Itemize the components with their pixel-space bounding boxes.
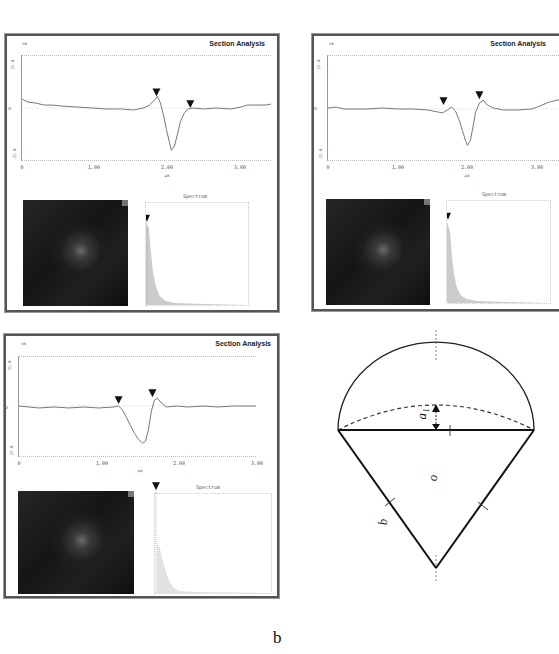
marker-right-icon [186,100,194,108]
section-profile-plot: 25.0 0 -25.0 0 1.00 2.00 3.00 μm [18,356,256,457]
y-unit-label: nm [329,41,334,46]
y-tick-top: 25.0 [316,60,321,70]
section-analysis-panel-3: Section Analysis nm 25.0 0 -25.0 0 1.00 … [4,334,279,598]
marker-left-icon [440,97,448,105]
profile-line [19,357,256,456]
panel-title: Section Analysis [215,340,271,347]
y-tick-top: 25.0 [7,361,12,371]
y-tick-bottom: -25.0 [9,445,14,457]
figure-caption: b [273,628,282,648]
profile-line [328,56,559,160]
x-tick-2: 2.00 [173,460,185,466]
spectrum-title: Spectrum [482,191,506,197]
section-profile-plot: 25.0 0 -25.0 0 1.00 2.00 3.00 μm [327,55,559,161]
spectrum-marker-icon [152,482,160,490]
spectrum-title: Spectrum [196,484,220,490]
afm-height-image [326,199,430,305]
x-tick-3: 3.00 [251,460,263,466]
x-tick-1: 1.00 [392,164,404,170]
marker-left-icon [152,88,160,96]
afm-height-image [23,200,128,306]
marker-right-icon [148,389,156,397]
y-tick-zero: 0 [7,107,12,109]
spectrum-plot [154,493,272,594]
label-b: b [375,519,391,526]
spectrum-marker-icon [447,213,451,220]
x-unit-label: μm [465,173,470,178]
y-tick-zero: 0 [313,107,318,109]
label-o: o [425,475,441,482]
x-tick-2: 2.00 [461,164,473,170]
x-tick-1: 1.00 [96,460,108,466]
x-tick-0: 0 [17,460,20,466]
label-a1: a₁ [414,408,430,419]
section-analysis-panel-1: Section Analysis nm 25.0 0 -25.0 0 1.00 … [5,34,279,312]
marker-right-icon [475,91,483,99]
cone-left-side [338,430,436,568]
y-tick-zero: 0 [4,406,9,408]
y-tick-top: 25.0 [10,60,15,70]
y-tick-bottom: -25.0 [318,148,323,160]
afm-height-image [18,491,134,594]
y-unit-label: nm [22,41,27,46]
y-unit-label: nm [21,341,26,346]
x-tick-2: 2.00 [161,164,173,170]
x-tick-1: 1.00 [88,164,100,170]
x-tick-3: 3.00 [531,164,543,170]
profile-line [22,56,271,160]
x-unit-label: μm [138,468,143,473]
hemisphere-cone-diagram: a₁ o b [320,320,559,590]
x-tick-0: 0 [20,164,23,170]
y-tick-bottom: -25.0 [12,148,17,160]
panel-title: Section Analysis [490,40,546,47]
x-tick-3: 3.00 [234,164,246,170]
spectrum-title: Spectrum [183,193,207,199]
section-profile-plot: 25.0 0 -25.0 0 1.00 2.00 3.00 μm [21,55,271,161]
spectrum-plot [145,202,249,306]
cone-right-side [436,430,534,568]
marker-left-icon [115,396,123,404]
spectrum-marker-icon [146,215,150,222]
spectrum-plot [446,200,551,304]
section-analysis-panel-2: Section Analysis nm 25.0 0 -25.0 0 1.00 … [312,34,559,311]
x-unit-label: μm [165,173,170,178]
x-tick-0: 0 [326,164,329,170]
panel-title: Section Analysis [209,40,265,47]
